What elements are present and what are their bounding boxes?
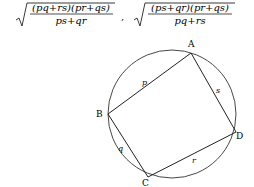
side-r-label: r	[192, 156, 197, 165]
diagram: (pq+rs)(pr+qs) ps+qr , (ps+qr)(pr+qs) pq…	[0, 0, 254, 187]
formula-2-numerator: (ps+qr)(pr+qs)	[151, 2, 229, 13]
circumcircle	[108, 50, 236, 178]
formula-2: (ps+qr)(pr+qs) pq+rs	[134, 2, 235, 26]
vertex-b-label: B	[96, 109, 103, 119]
vertex-c-label: C	[142, 178, 149, 187]
formula-1: (pq+rs)(pr+qs) ps+qr	[16, 2, 115, 26]
formula-1-numerator: (pq+rs)(pr+qs)	[32, 2, 110, 13]
formula-1-denominator: ps+qr	[55, 15, 87, 26]
quadrilateral	[108, 53, 236, 177]
separator: ,	[121, 11, 124, 22]
formula-2-denominator: pq+rs	[174, 15, 205, 26]
vertex-a-label: A	[187, 39, 195, 49]
side-s-label: s	[216, 86, 220, 95]
side-p-label: p	[142, 78, 147, 87]
vertex-d-label: D	[236, 131, 243, 141]
side-q-label: q	[118, 144, 123, 153]
